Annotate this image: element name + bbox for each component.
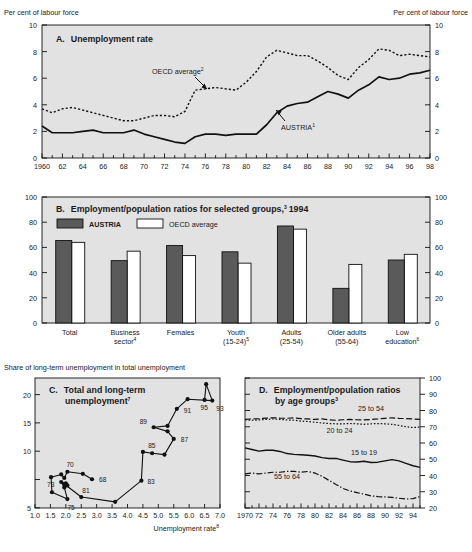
- panel-c-point-91: [175, 407, 179, 411]
- panel-b-bar-oecd-0: [72, 242, 85, 323]
- panel-b-bar-austria-2: [167, 246, 183, 323]
- panel-a-xtick-78: 78: [222, 162, 230, 171]
- panel-b-bar-oecd-4: [293, 229, 306, 323]
- panel-a-ytick-right-2: 2: [435, 127, 439, 136]
- panel-c-point-68: [90, 477, 94, 481]
- panel-a-xtick-86: 86: [303, 162, 311, 171]
- panel-b-legend-label-oecd: OECD average: [169, 220, 218, 229]
- panel-d-xtick-94: 94: [409, 511, 417, 520]
- panel-d-xtick-84: 84: [339, 511, 347, 520]
- panel-b-bar-austria-5: [333, 288, 349, 323]
- panel-c-xtick-5.5: 5.5: [169, 511, 179, 520]
- panel-d-xtick-76: 76: [283, 511, 291, 520]
- panel-c-pointlabel-75: 75: [67, 504, 75, 511]
- panel-a-xtick-68: 68: [120, 162, 128, 171]
- panel-c-point-89: [152, 425, 156, 429]
- panel-d-xtick-80: 80: [311, 511, 319, 520]
- panel-b-ytick-right-80: 80: [435, 218, 443, 227]
- panel-b-bar-oecd-6: [404, 254, 417, 323]
- panel-b-ytick-0: 0: [33, 319, 37, 328]
- panel-a: 10 8 6 4 2 0 10 8 6 4 2 0 196062646: [29, 21, 443, 171]
- panel-b-catlabel-4-line2: (25-54): [280, 337, 303, 346]
- panel-b-bar-oecd-3: [238, 263, 251, 323]
- panel-d-annotation-15-to-19: 15 to 19: [351, 448, 377, 457]
- panel-d-annotation-20-to-24: 20 to 24: [327, 426, 353, 435]
- panel-d-ytick-20: 20: [429, 504, 437, 513]
- panel-c: Share of long-term unemployment in total…: [4, 363, 225, 533]
- panel-b-catlabel-2: Females: [167, 328, 195, 337]
- panel-c-ytick-15: 15: [23, 419, 31, 428]
- panel-c-pointlabel-85: 85: [148, 442, 156, 449]
- panel-c-point-71: [62, 476, 66, 480]
- header-right-label: Per cent of labour force: [393, 8, 468, 17]
- panel-b-catlabel-3-line2: (15-24)5: [223, 336, 249, 346]
- panel-c-xtick-3.5: 3.5: [107, 511, 117, 520]
- panel-c-pointlabel-81: 81: [82, 487, 90, 494]
- panel-b-bar-oecd-2: [183, 256, 196, 323]
- panel-b-bar-oecd-5: [349, 264, 362, 323]
- panel-b-catlabel-6-line2: education6: [385, 336, 419, 346]
- panel-c-pointlabel-93: 93: [216, 405, 224, 412]
- panel-d-ytick-50: 50: [429, 455, 437, 464]
- panel-a-ytick-right-8: 8: [435, 48, 439, 57]
- panel-c-pointlabel-87: 87: [181, 436, 189, 443]
- panel-c-xtick-7.0: 7.0: [215, 511, 225, 520]
- panel-c-pointlabel-73: 73: [47, 481, 55, 488]
- panel-b-legend-label-austria: AUSTRIA: [89, 220, 121, 229]
- panel-c-pointlabel-91: 91: [184, 407, 192, 414]
- panel-d-xtick-90: 90: [381, 511, 389, 520]
- panel-b-bar-austria-1: [111, 261, 127, 323]
- panel-d-xtick-86: 86: [353, 511, 361, 520]
- panel-a-annotation-austria: AUSTRIA1: [281, 122, 315, 132]
- panel-d-title-line2: by age groups3: [275, 396, 338, 407]
- panel-b-title: B.Employment/population ratios for selec…: [56, 204, 308, 215]
- panel-b-catlabel-1-line2: sector4: [114, 336, 137, 346]
- panel-b-bar-austria-4: [277, 226, 293, 323]
- panel-c-point-72: [59, 472, 63, 476]
- panel-d-xtick-1970: 1970: [237, 511, 253, 520]
- panel-d-ytick-30: 30: [429, 488, 437, 497]
- panel-a-xtick-76: 76: [201, 162, 209, 171]
- panel-b-catlabel-0: Total: [62, 328, 78, 337]
- panel-c-point-88: [165, 429, 169, 433]
- panel-c-xtick-4.0: 4.0: [123, 511, 133, 520]
- panel-d-ytick-70: 70: [429, 423, 437, 432]
- panel-b-ytick-right-60: 60: [435, 243, 443, 252]
- panel-c-point-94: [204, 382, 208, 386]
- panel-c-point-82: [113, 500, 117, 504]
- panel-b-ytick-right-0: 0: [435, 319, 439, 328]
- panel-d-ytick-60: 60: [429, 439, 437, 448]
- panel-c-xtick-5.0: 5.0: [153, 511, 163, 520]
- panel-d: 2030405060708090100 19707274767880828486…: [237, 374, 441, 520]
- panel-a-ytick-10: 10: [29, 21, 37, 30]
- panel-c-point-83: [139, 479, 143, 483]
- panel-b-bar-austria-6: [388, 260, 404, 323]
- panel-a-xtick-70: 70: [140, 162, 148, 171]
- panel-c-point-69: [81, 472, 85, 476]
- panel-b-bar-austria-3: [222, 252, 238, 323]
- panel-c-point-74: [50, 490, 54, 494]
- figure-container: Per cent of labour force Per cent of lab…: [0, 0, 472, 552]
- panel-c-xtick-6.0: 6.0: [184, 511, 194, 520]
- panel-d-xtick-72: 72: [255, 511, 263, 520]
- panel-b-ytick-60: 60: [29, 243, 37, 252]
- panel-c-point-81: [79, 495, 83, 499]
- panel-a-ytick-right-6: 6: [435, 74, 439, 83]
- panel-d-xtick-92: 92: [395, 511, 403, 520]
- panel-a-xtick-98: 98: [426, 162, 434, 171]
- panel-d-ytick-90: 90: [429, 390, 437, 399]
- panel-c-point-84: [141, 450, 145, 454]
- panel-d-xtick-88: 88: [367, 511, 375, 520]
- panel-b-ytick-right-20: 20: [435, 294, 443, 303]
- panel-c-title-line1: C.Total and long-term: [49, 385, 145, 395]
- panel-b-ytick-40: 40: [29, 269, 37, 278]
- panel-c-point-86: [162, 453, 166, 457]
- panel-c-xtick-3.0: 3.0: [92, 511, 102, 520]
- panel-d-ytick-80: 80: [429, 407, 437, 416]
- panel-a-title: A.Unemployment rate: [56, 34, 153, 44]
- panel-c-xlabel: Unemployment rate8: [154, 523, 220, 534]
- panel-a-ytick-right-4: 4: [435, 101, 439, 110]
- panel-c-header-label: Share of long-term unemployment in total…: [4, 363, 185, 372]
- panel-b: 100 80 60 40 20 0 100 80 60 40 20 0 B.: [25, 193, 447, 346]
- panel-d-xtick-82: 82: [325, 511, 333, 520]
